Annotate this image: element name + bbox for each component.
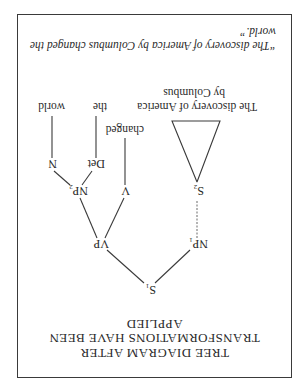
leaf-subject-line1: The discovery of America [137,101,257,113]
node-v: V [121,185,130,197]
node-det: Det [88,158,105,170]
edge-np2-n [54,171,70,185]
edge-vp-np2 [80,198,97,238]
s2-triangle [172,121,220,182]
edge-s1-np1 [155,250,190,283]
edge-s1-vp [107,250,144,283]
node-np1: NP1 [189,234,208,250]
tree-edges [0,0,302,382]
node-s2: S2 [194,181,204,197]
node-vp: VP [94,238,109,250]
leaf-world: world [38,101,65,113]
leaf-subject-line2: by Columbus [163,87,225,99]
edge-vp-v [105,198,124,238]
figure-caption-quote: “The discovery of America by Columbus ch… [26,25,276,53]
figure-page: TREE DIAGRAM AFTER TRANSFORMATIONS HAVE … [0,0,302,382]
node-n: N [48,158,57,170]
node-s1: S1 [146,280,156,296]
leaf-the: the [93,101,107,113]
leaf-changed: changed [106,124,144,136]
node-np2: NP2 [69,181,88,197]
